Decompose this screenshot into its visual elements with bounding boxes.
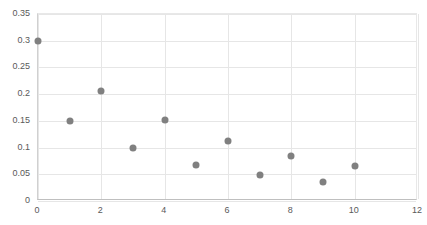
x-tick-label: 2 — [90, 206, 110, 215]
x-tick-label: 6 — [217, 206, 237, 215]
x-tick-label: 0 — [27, 206, 47, 215]
x-tick-label: 8 — [280, 206, 300, 215]
scatter-chart: 00.050.10.150.20.250.30.35 024681012 — [0, 0, 427, 225]
x-axis: 024681012 — [0, 0, 427, 225]
x-tick-label: 4 — [154, 206, 174, 215]
x-tick-label: 10 — [344, 206, 364, 215]
x-tick-label: 12 — [407, 206, 427, 215]
